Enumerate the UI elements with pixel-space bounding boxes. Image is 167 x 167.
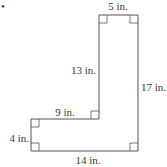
label-left: 4 in. (9, 132, 29, 144)
right-angle-marker-top-left (99, 15, 107, 23)
right-angle-marker-bottom-right (130, 143, 138, 151)
label-inner-vertical: 13 in. (71, 64, 96, 76)
right-angle-marker-top-right (130, 15, 138, 23)
l-shape-diagram: • 5 in. 13 in. 17 in. 9 in. 4 in. 14 in. (0, 0, 167, 167)
l-shape-outline (31, 15, 138, 151)
label-bottom: 14 in. (75, 154, 100, 166)
label-right: 17 in. (141, 81, 166, 93)
right-angle-marker-inner (91, 111, 99, 119)
label-inner-horizontal: 9 in. (55, 106, 75, 118)
right-angle-marker-left-top (31, 119, 39, 127)
right-angle-marker-left-bottom (31, 143, 39, 151)
label-top: 5 in. (108, 0, 128, 12)
problem-marker: • (1, 0, 5, 12)
